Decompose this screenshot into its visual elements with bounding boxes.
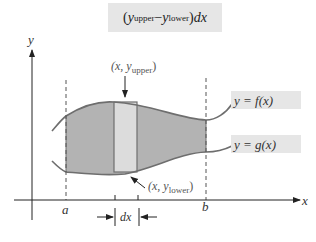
- lower-point-arrow: [131, 177, 145, 188]
- dx-label: dx: [120, 210, 132, 224]
- curve-f-label: y = f(x): [232, 93, 273, 108]
- lower-point-label: (x, ylower): [148, 179, 193, 195]
- x-axis-label: x: [301, 193, 308, 208]
- area-between-curves-diagram: y x a b (x, yupper) (x, ylower) y = f(x)…: [0, 0, 316, 242]
- bound-b-label: b: [202, 199, 209, 214]
- y-axis-label: y: [26, 32, 34, 47]
- curve-g-label: y = g(x): [232, 137, 276, 152]
- bound-a-label: a: [62, 202, 69, 217]
- upper-point-label: (x, yupper): [111, 59, 156, 75]
- representative-strip: [114, 102, 137, 172]
